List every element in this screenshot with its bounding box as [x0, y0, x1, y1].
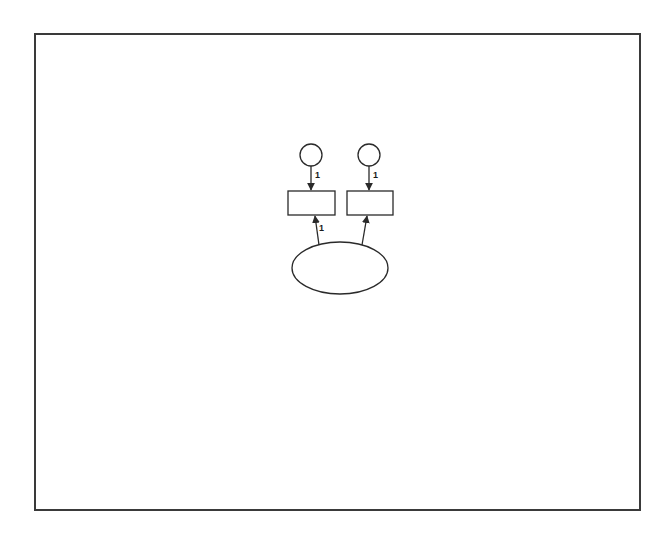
path-label-e2-x2: 1 — [373, 170, 378, 180]
path-label-f1-x1: 1 — [319, 223, 324, 233]
latent-variable-f1[interactable] — [292, 242, 388, 294]
observed-variable-x2[interactable] — [347, 191, 393, 215]
error-term-e2[interactable] — [358, 144, 380, 166]
path-label-e1-x1: 1 — [315, 170, 320, 180]
error-term-e1[interactable] — [300, 144, 322, 166]
path-f1-to-x2[interactable] — [362, 216, 367, 245]
path-diagram-canvas: 1 1 1 — [0, 0, 669, 536]
observed-variable-x1[interactable] — [288, 191, 335, 215]
